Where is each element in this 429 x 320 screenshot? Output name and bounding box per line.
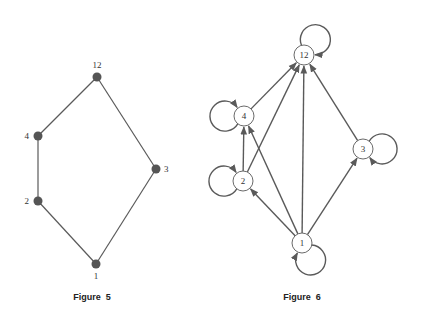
edge-1-3 bbox=[307, 158, 357, 234]
edge-3-12 bbox=[310, 64, 358, 140]
node-label-2: 2 bbox=[25, 196, 30, 206]
edge-1-12 bbox=[302, 66, 304, 233]
node-1 bbox=[92, 260, 101, 269]
edge-2-4 bbox=[243, 127, 244, 171]
node-4 bbox=[34, 132, 43, 141]
edge-1-4 bbox=[249, 126, 298, 234]
edge-1-3 bbox=[96, 169, 156, 264]
edge-1-2 bbox=[38, 201, 96, 264]
node-label-2: 2 bbox=[241, 176, 246, 186]
node-label-12: 12 bbox=[300, 50, 309, 60]
edge-3-12 bbox=[97, 77, 156, 169]
node-label-1: 1 bbox=[300, 238, 305, 248]
edge-4-12 bbox=[38, 77, 97, 136]
node-label-3: 3 bbox=[361, 144, 366, 154]
node-label-4: 4 bbox=[242, 111, 247, 121]
node-label-12: 12 bbox=[93, 60, 102, 70]
figure-6-directed-graph: 124321 bbox=[209, 25, 397, 275]
node-label-1: 1 bbox=[94, 271, 99, 281]
figure-5-hasse-diagram: 124321 bbox=[25, 60, 170, 281]
figure-5-caption: Figure 5 bbox=[73, 292, 111, 302]
node-3 bbox=[152, 165, 161, 174]
figure-6-caption: Figure 6 bbox=[283, 292, 321, 302]
node-12 bbox=[93, 73, 102, 82]
edge-2-12 bbox=[247, 65, 299, 172]
node-label-4: 4 bbox=[25, 131, 30, 141]
diagram-canvas: 124321 124321 bbox=[0, 0, 429, 320]
node-label-3: 3 bbox=[164, 164, 169, 174]
node-2 bbox=[34, 197, 43, 206]
